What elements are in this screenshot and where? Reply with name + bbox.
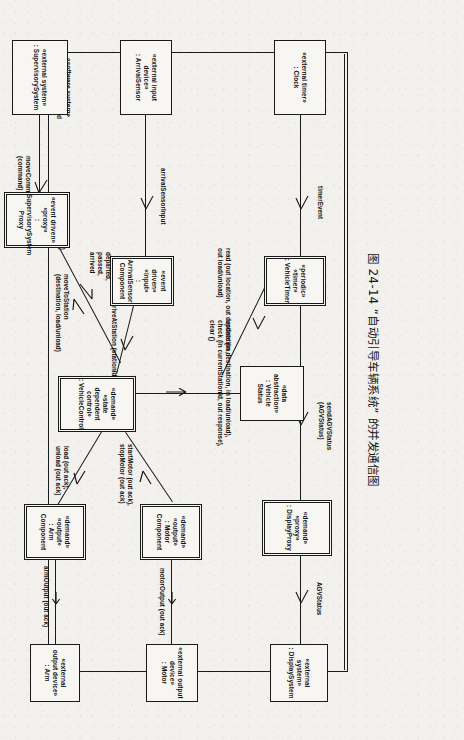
node-motor-device-stereotype: «external output device» bbox=[168, 646, 184, 700]
message-move-to-station: moveToStation (destination, load/unload) bbox=[54, 274, 70, 352]
arrowhead-read bbox=[250, 316, 266, 334]
node-supervisory-proxy-name: : SupervisorySystem Proxy bbox=[17, 194, 42, 246]
arrowhead-motor-output bbox=[165, 592, 179, 608]
message-send-agv-status: sendAGVStatus (AGVStatus) bbox=[317, 402, 333, 450]
arrowhead-arrive-at-station bbox=[118, 336, 134, 356]
node-arrival-sensor-component-name: : ArrivalSensor Component bbox=[117, 258, 142, 304]
node-display-proxy[interactable]: «demand» «proxy» : DisplayProxy bbox=[262, 500, 332, 556]
node-clock-stereotype: «external timer» bbox=[300, 42, 308, 113]
line-arrivalsensor-to-component bbox=[145, 115, 146, 256]
arrowhead-departed-passed-arrived bbox=[78, 282, 96, 302]
arrowhead-timer-event bbox=[293, 196, 309, 214]
node-arrival-sensor-stereotype: «external input device» bbox=[142, 42, 158, 113]
arrowhead-update-check-clear bbox=[166, 386, 188, 398]
message-departed-passed-arrived: departed, passed, arrived bbox=[87, 252, 112, 281]
node-supervisory-proxy[interactable]: «event driven» «proxy» : SupervisorySyst… bbox=[4, 192, 70, 248]
system-boundary-box bbox=[48, 52, 348, 672]
arrowhead-agv-status bbox=[293, 590, 309, 608]
node-display-system-name: : DisplaySystem bbox=[287, 646, 295, 700]
node-display-system[interactable]: «external system» : DisplaySystem bbox=[270, 644, 328, 702]
arrowhead-arrival-sensor-input bbox=[138, 196, 154, 214]
node-motor-component-name: : Motor Component bbox=[155, 506, 171, 558]
message-arrive-at-station: arriveAtStation (stationId) bbox=[110, 300, 118, 379]
node-vehicle-timer-name: : VehicleTimer bbox=[283, 258, 291, 304]
node-arm-component-stereotype: «demand» «output» bbox=[55, 506, 71, 558]
node-motor-component[interactable]: «demand» «output» : Motor Component bbox=[140, 504, 202, 560]
node-display-proxy-stereotype: «demand» «proxy» bbox=[293, 502, 309, 554]
node-arm-component-name: : Arm Component bbox=[39, 506, 55, 558]
node-display-system-stereotype: «external system» bbox=[295, 646, 311, 700]
node-motor-component-stereotype: «demand» «output» bbox=[171, 506, 187, 558]
line-clock-to-timer bbox=[300, 115, 301, 256]
arrowhead-start-stop-motor bbox=[136, 470, 152, 488]
node-supervisory-system-name: : SupervisorySystem bbox=[32, 42, 40, 113]
node-arm-device-name: : Arm bbox=[43, 646, 51, 700]
node-vehicle-timer[interactable]: «periodic» «timer» : VehicleTimer bbox=[264, 256, 326, 306]
node-vehicle-timer-stereotype: «periodic» «timer» bbox=[291, 258, 307, 304]
node-supervisory-system-stereotype: «external system» bbox=[40, 42, 48, 113]
message-agv-status: AGVStatus bbox=[315, 582, 323, 615]
node-arrival-sensor-component-stereotype: «event driven» «input» bbox=[142, 258, 167, 304]
node-arm-component[interactable]: «demand» «output» : Arm Component bbox=[24, 504, 86, 560]
message-start-stop-motor: startMotor (out ack), stopMotor (out ack… bbox=[118, 444, 134, 506]
arrowhead-load-unload bbox=[70, 470, 86, 488]
message-load-unload: load (out ack), unload (out ack) bbox=[54, 446, 70, 495]
node-arrival-sensor[interactable]: «external input device» : ArrivalSensor bbox=[120, 40, 172, 115]
node-vehicle-control-stereotype: «demand» «state dependent control» bbox=[85, 378, 118, 430]
node-arrival-sensor-component[interactable]: «event driven» «input» : ArrivalSensor C… bbox=[110, 256, 174, 306]
node-clock[interactable]: «external timer» : Clock bbox=[274, 40, 326, 115]
message-arm-output: armOutput (out ack) bbox=[42, 566, 50, 627]
node-arrival-sensor-name: : ArrivalSensor bbox=[134, 42, 142, 113]
figure-caption: 图 24-14 “自动引导车辆系统” 的并发通信图 bbox=[344, 0, 404, 740]
message-arrival-sensor-input: arrivalSensorInput bbox=[159, 168, 167, 225]
node-vehicle-status-name: : Vehicle Status bbox=[256, 368, 272, 419]
node-vehicle-status[interactable]: «data abstraction» : Vehicle Status bbox=[240, 366, 304, 421]
node-supervisory-proxy-stereotype: «event driven» «proxy» bbox=[41, 194, 57, 246]
node-vehicle-status-stereotype: «data abstraction» bbox=[272, 368, 288, 419]
message-motor-output: motorOutput (out ack) bbox=[158, 568, 166, 636]
node-display-proxy-name: : DisplayProxy bbox=[285, 502, 293, 554]
node-vehicle-control-name: : VehicleControl bbox=[77, 378, 85, 430]
node-vehicle-control[interactable]: «demand» «state dependent control» : Veh… bbox=[58, 376, 136, 432]
node-motor-device[interactable]: «external output device» : Motor bbox=[146, 644, 198, 702]
node-arm-device-stereotype: «external output device» bbox=[51, 646, 67, 700]
message-timer-event: timerEvent bbox=[316, 186, 324, 219]
node-clock-name: : Clock bbox=[292, 42, 300, 113]
message-update-check-clear: update (in destination, in load/unload),… bbox=[207, 320, 232, 447]
node-arm-device[interactable]: «external output device» : Arm bbox=[30, 644, 80, 702]
node-supervisory-system[interactable]: «external system» : SupervisorySystem bbox=[12, 40, 68, 115]
arrowhead-arm-output bbox=[49, 592, 63, 608]
node-motor-device-name: : Motor bbox=[160, 646, 168, 700]
